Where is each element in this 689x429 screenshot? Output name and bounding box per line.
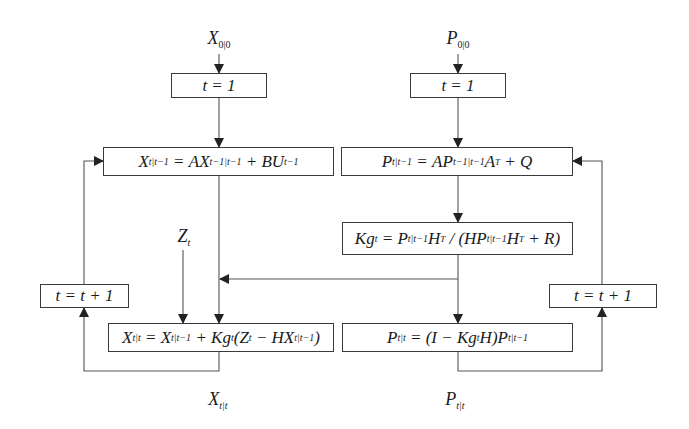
init-time-box-left: t = 1 bbox=[171, 73, 267, 98]
state-prediction-box: Xt|t−1 = AXt−1|t−1 + BUt−1 bbox=[103, 147, 334, 176]
connector-lines bbox=[0, 0, 689, 429]
init-time-box-right: t = 1 bbox=[410, 73, 506, 98]
initial-state-label: X0|0 bbox=[207, 28, 230, 50]
state-estimate-output-label: Xt|t bbox=[208, 389, 227, 411]
increment-time-box-right: t = t + 1 bbox=[549, 284, 657, 308]
state-update-box: Xt|t = Xt|t−1 + Kgt (Zt − HXt|t−1 ) bbox=[108, 323, 334, 352]
increment-time-box-left: t = t + 1 bbox=[40, 284, 129, 308]
initial-covariance-label: P0|0 bbox=[446, 28, 469, 50]
measurement-label: Zt bbox=[178, 226, 191, 248]
covariance-update-box: Pt|t = (I − Kgt H)Pt|t−1 bbox=[342, 323, 573, 352]
covariance-estimate-output-label: Pt|t bbox=[445, 389, 464, 411]
covariance-prediction-box: Pt|t−1 = APt−1|t−1 AT + Q bbox=[341, 147, 573, 176]
kalman-gain-box: Kgt = Pt|t−1 HT / (HPt|t−1 HT + R) bbox=[342, 222, 573, 255]
